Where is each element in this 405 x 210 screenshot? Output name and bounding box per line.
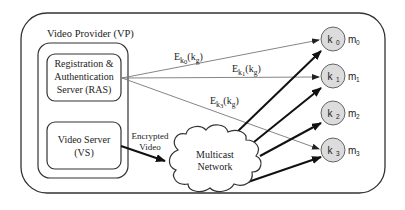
vp-label: Video Provider (VP) — [47, 28, 134, 40]
svg-text:3: 3 — [356, 150, 360, 157]
diagram-canvas: Video Provider (VP) Registration & Authe… — [0, 0, 405, 210]
svg-text:2: 2 — [336, 113, 340, 120]
encrypted-label-1: Encrypted — [132, 131, 169, 141]
edge-label-k1: Ek1(kg) — [232, 63, 261, 77]
edge-label-k0: Ek0(kg) — [174, 51, 203, 65]
edge-ras-k0 — [122, 40, 319, 78]
vs-box — [47, 122, 121, 169]
svg-text:1: 1 — [336, 76, 340, 83]
member-node-3: k 3 m 3 — [321, 138, 360, 162]
svg-text:0: 0 — [356, 39, 360, 46]
svg-text:0: 0 — [336, 39, 340, 46]
svg-text:1: 1 — [356, 76, 360, 83]
edge-cloud-k2 — [260, 123, 321, 156]
cloud-line-2: Network — [198, 161, 233, 172]
ras-line-2: Authentication — [54, 71, 113, 82]
svg-text:2: 2 — [356, 113, 360, 120]
edge-cloud-k1 — [254, 88, 321, 142]
vs-line-2: (VS) — [74, 147, 93, 159]
member-node-1: k 1 m 1 — [321, 64, 360, 88]
edge-label-k3: Ek3(kg) — [210, 95, 239, 109]
edge-ras-k1 — [122, 77, 319, 78]
svg-text:3: 3 — [336, 150, 340, 157]
member-node-2: k 2 m 2 — [321, 101, 360, 125]
vs-line-1: Video Server — [58, 134, 111, 145]
ras-line-3: Server (RAS) — [57, 84, 112, 96]
member-node-0: k 0 m 0 — [321, 27, 360, 51]
encrypted-label-2: Video — [139, 142, 161, 152]
ras-line-1: Registration & — [54, 58, 113, 69]
cloud-line-1: Multicast — [196, 149, 234, 160]
